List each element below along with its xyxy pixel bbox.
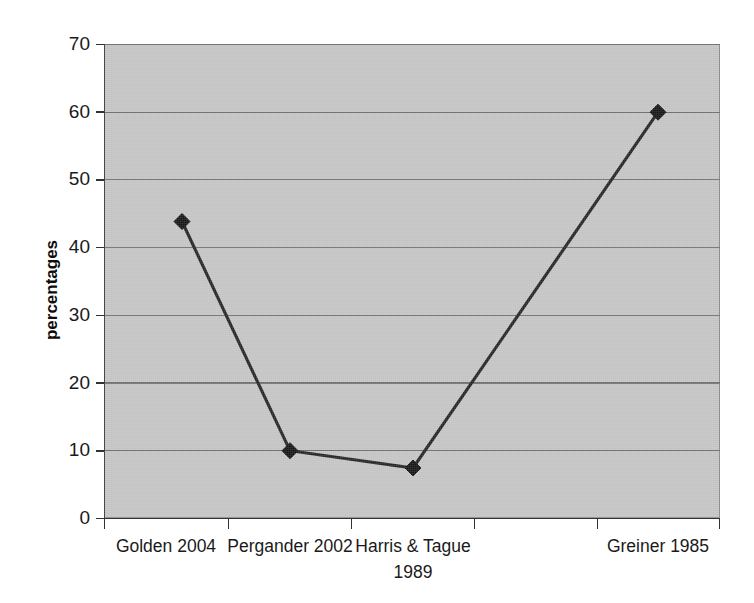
y-tick-label-30: 30 [69,304,90,325]
line-chart: 70 60 50 40 30 20 10 0 Golden 2004 Perga… [0,0,754,603]
x-axis-ticks [105,518,720,529]
x-tick-label-pergander-2002: Pergander 2002 [227,536,353,556]
y-tick-label-0: 0 [79,507,90,528]
x-tick-label-golden-2004: Golden 2004 [116,536,216,556]
y-tick-label-40: 40 [69,236,90,257]
y-tick-label-20: 20 [69,372,90,393]
x-axis-tick-labels: Golden 2004 Pergander 2002 Harris & Tagu… [116,536,709,582]
x-tick-label-greiner-1985: Greiner 1985 [607,536,709,556]
y-axis-tick-labels: 70 60 50 40 30 20 10 0 [69,33,90,528]
y-tick-label-50: 50 [69,168,90,189]
chart-container: 70 60 50 40 30 20 10 0 Golden 2004 Perga… [0,0,754,603]
x-tick-label-harris-tague-1989-line2: 1989 [394,562,433,582]
y-tick-label-60: 60 [69,101,90,122]
y-axis-ticks [96,45,104,519]
x-tick-label-harris-tague-1989-line1: Harris & Tague [355,536,470,556]
y-axis-title: percentages [42,240,61,340]
y-tick-label-10: 10 [69,439,90,460]
y-tick-label-70: 70 [69,33,90,54]
plot-area-background [104,44,720,518]
